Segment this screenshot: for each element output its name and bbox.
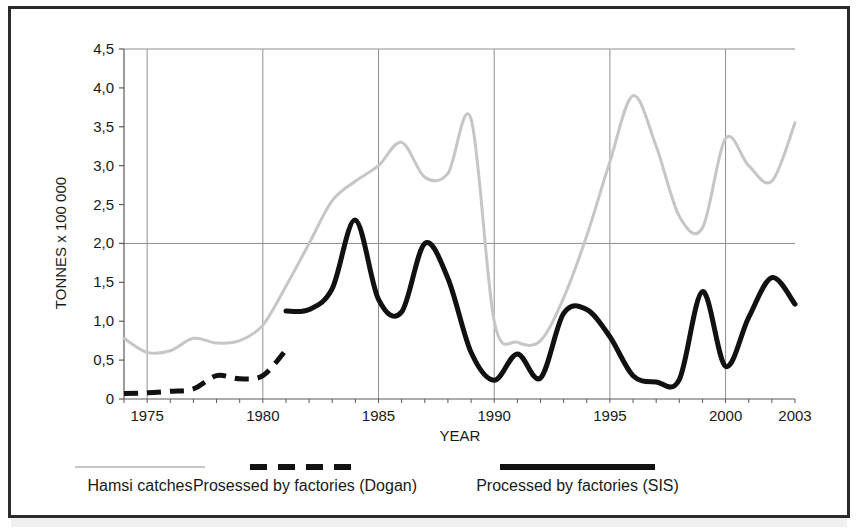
y-tick-label: 1,5 — [93, 273, 114, 290]
y-tick-label: 3,0 — [93, 157, 114, 174]
line-chart: 00,51,01,52,02,53,03,54,04,5197519801985… — [0, 0, 857, 530]
series-line — [124, 350, 286, 394]
x-tick-label: 1995 — [593, 407, 626, 424]
axis-tick-labels: 00,51,01,52,02,53,03,54,04,5197519801985… — [93, 40, 812, 424]
x-axis-label: YEAR — [440, 427, 481, 444]
y-tick-label: 1,0 — [93, 312, 114, 329]
y-tick-label: 4,5 — [93, 40, 114, 57]
y-tick-label: 2,0 — [93, 234, 114, 251]
axis-ticks — [119, 49, 795, 403]
y-tick-label: 0,5 — [93, 351, 114, 368]
y-tick-label: 2,5 — [93, 196, 114, 213]
y-axis-label: TONNES x 100 000 — [52, 177, 69, 309]
x-tick-label: 2003 — [778, 407, 811, 424]
y-tick-label: 3,5 — [93, 118, 114, 135]
y-tick-label: 4,0 — [93, 79, 114, 96]
legend-label: Processed by factories (SIS) — [476, 477, 679, 494]
figure-container: 00,51,01,52,02,53,03,54,04,5197519801985… — [0, 0, 857, 530]
y-tick-label: 0 — [106, 390, 114, 407]
x-tick-label: 1990 — [478, 407, 511, 424]
x-tick-label: 1985 — [362, 407, 395, 424]
x-tick-label: 2000 — [709, 407, 742, 424]
data-series — [124, 96, 795, 394]
x-tick-label: 1975 — [130, 407, 163, 424]
legend: Hamsi catchesProsessed by factories (Dog… — [75, 467, 679, 494]
series-line — [286, 220, 795, 387]
x-tick-label: 1980 — [246, 407, 279, 424]
grid-lines — [124, 49, 795, 399]
legend-label: Prosessed by factories (Dogan) — [193, 477, 417, 494]
legend-label: Hamsi catches — [88, 477, 193, 494]
axes — [124, 49, 795, 399]
